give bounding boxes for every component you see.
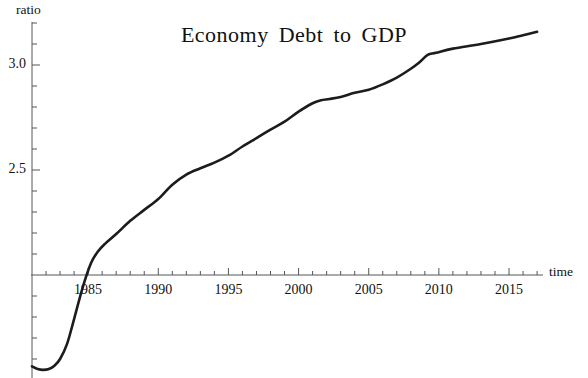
tick-marks [32,23,537,359]
x-tick-label: 2000 [276,283,322,297]
x-tick-label: 1990 [135,283,181,297]
data-series-group [32,32,537,370]
plot-area [0,0,588,378]
x-tick-label: 2005 [346,283,392,297]
y-tick-label: 3.0 [0,57,26,71]
series-line-0 [32,32,537,370]
y-tick-label: 2.5 [0,162,26,176]
x-tick-label: 2015 [486,283,532,297]
x-tick-label: 1995 [205,283,251,297]
axis-lines [31,22,543,378]
chart-canvas: Economy Debt to GDP ratio time 2.53.0 19… [0,0,588,378]
x-tick-label: 2010 [416,283,462,297]
x-tick-label: 1985 [65,283,111,297]
